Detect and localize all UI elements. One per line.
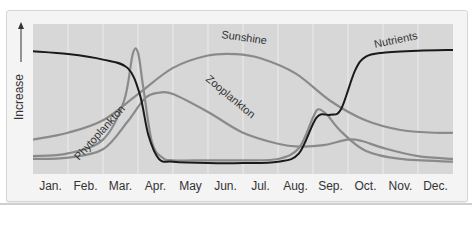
x-tick-label: Apr. <box>138 179 173 193</box>
x-tick-label: Nov. <box>383 179 418 193</box>
x-tick-label: Jul. <box>243 179 278 193</box>
line-chart: NutrientsSunshineZooplanktonPhytoplankto… <box>33 24 453 174</box>
series-label: Sunshine <box>221 28 268 46</box>
x-tick-label: Oct. <box>348 179 383 193</box>
series-label: Nutrients <box>373 29 419 50</box>
x-tick-label: May <box>173 179 208 193</box>
x-tick-label: Sep. <box>313 179 348 193</box>
x-tick-label: Feb. <box>68 179 103 193</box>
bottom-divider <box>0 203 472 205</box>
x-tick-label: Mar. <box>103 179 138 193</box>
x-tick-label: Jun. <box>208 179 243 193</box>
x-tick-label: Aug. <box>278 179 313 193</box>
x-tick-label: Dec. <box>418 179 453 193</box>
plot-area: NutrientsSunshineZooplanktonPhytoplankto… <box>33 24 453 174</box>
x-tick-label: Jan. <box>33 179 68 193</box>
